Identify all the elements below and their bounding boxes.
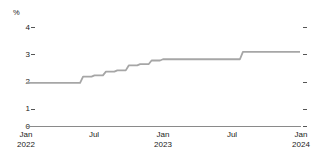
- x-axis-tick-label-0: Jan 2022: [6, 130, 46, 150]
- x-axis-tick-month-1: Jul: [74, 130, 114, 140]
- x-axis-tick-month-4: Jan: [281, 130, 311, 140]
- x-axis-tick-year-4: 2024: [281, 140, 311, 150]
- x-axis-tick-label-2: Jan 2023: [143, 130, 183, 150]
- x-axis-tick-label-4: Jan 2024: [281, 130, 311, 150]
- x-axis-tick-year-0: 2022: [6, 140, 46, 150]
- x-axis-tick-label-3: Jul: [212, 130, 252, 140]
- x-axis-tick-year-2: 2023: [143, 140, 183, 150]
- x-axis-tick-month-0: Jan: [6, 130, 46, 140]
- x-axis-tick-month-2: Jan: [143, 130, 183, 140]
- x-axis-tick-label-1: Jul: [74, 130, 114, 140]
- x-axis-tick-month-3: Jul: [212, 130, 252, 140]
- series-line-rate: [26, 52, 300, 83]
- chart-container: % 4 3 2 1 0 Jan 2022 Jul Jan 2023 Jul Ja…: [0, 0, 311, 165]
